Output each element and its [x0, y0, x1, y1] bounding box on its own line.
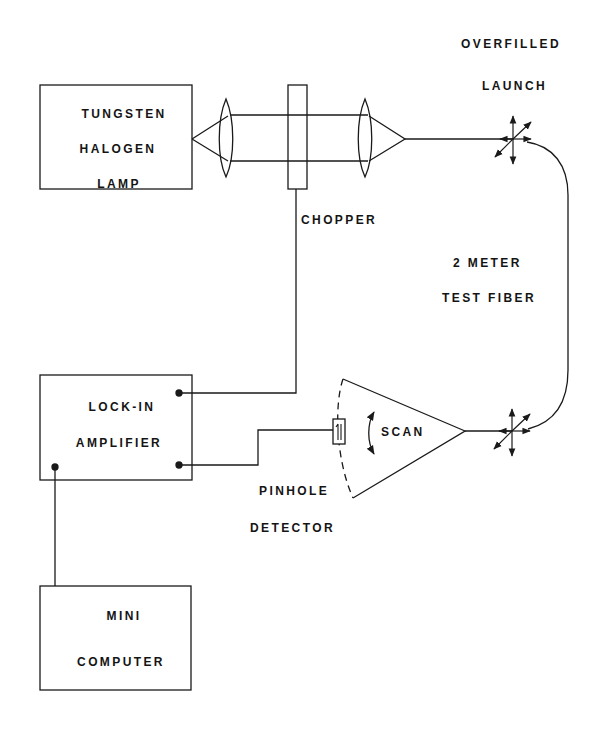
detector-label-line-2: DETECTOR [250, 521, 335, 535]
lamp-beam-cone [192, 116, 228, 161]
computer-box [40, 586, 191, 690]
chopper-reference-wire [179, 189, 296, 393]
lamp-label-line-3: LAMP [97, 177, 141, 191]
lens-2-icon [358, 99, 372, 177]
chopper-wheel [288, 85, 307, 189]
computer-label-line-2: COMPUTER [77, 655, 165, 669]
lamp-label-line-1: TUNGSTEN [81, 107, 166, 121]
lockin-box [40, 375, 192, 480]
lamp-label-line-2: HALOGEN [80, 142, 157, 156]
detector-label-line-1: PINHOLE [259, 484, 329, 498]
fiber-label-line-1: 2 METER [453, 256, 522, 270]
launch-label-line-2: LAUNCH [482, 79, 547, 93]
fiber-label-line-2: TEST FIBER [442, 291, 536, 305]
lockin-label-line-1: LOCK-IN [89, 400, 156, 414]
detector-signal-wire [179, 430, 334, 465]
lamp-box [40, 85, 192, 189]
launch-label-line-1: OVERFILLED [461, 37, 561, 51]
computer-label-line-1: MINI [107, 609, 142, 623]
launch-arrows-icon [495, 116, 531, 164]
test-fiber [527, 142, 568, 429]
lockin-label-line-2: AMPLIFIER [76, 436, 162, 450]
scan-arrow-icon [369, 412, 374, 454]
focus-cone [369, 116, 405, 161]
pinhole-detector-icon [333, 419, 345, 444]
chopper-label: CHOPPER [301, 213, 377, 227]
lens-1-icon [219, 99, 233, 177]
output-arrows-icon [494, 409, 530, 456]
scan-label: SCAN [381, 425, 425, 439]
